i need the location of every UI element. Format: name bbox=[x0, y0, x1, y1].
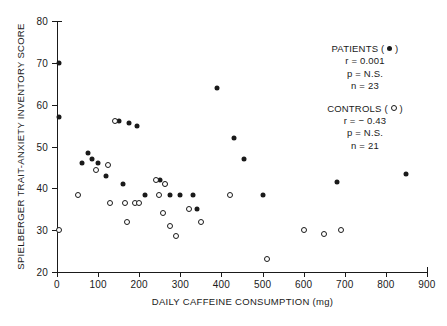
data-point-patient bbox=[57, 115, 62, 120]
x-axis-tick-label: 400 bbox=[213, 279, 230, 290]
y-axis-tick-label: 50 bbox=[36, 141, 48, 152]
x-axis-tick-label: 100 bbox=[89, 279, 106, 290]
scatter-plot-figure: SPIELBERGER TRAIT-ANXIETY INVENTORY SCOR… bbox=[0, 0, 447, 326]
data-point-control bbox=[162, 181, 168, 187]
open-circle-icon bbox=[391, 105, 397, 111]
x-axis-tick-label: 700 bbox=[336, 279, 353, 290]
data-point-patient bbox=[178, 192, 183, 197]
data-point-control bbox=[75, 192, 81, 198]
x-axis-line bbox=[57, 272, 428, 273]
y-axis-tick-label: 80 bbox=[36, 16, 48, 27]
legend-n-patients: n = 23 bbox=[300, 80, 430, 93]
x-axis-tick: 300 bbox=[180, 272, 181, 277]
data-point-patient bbox=[242, 157, 247, 162]
data-point-control bbox=[122, 200, 128, 206]
data-point-control bbox=[338, 227, 344, 233]
data-point-control bbox=[93, 167, 99, 173]
x-axis-tick-label: 600 bbox=[295, 279, 312, 290]
x-axis-tick: 100 bbox=[98, 272, 99, 277]
data-point-control bbox=[107, 200, 113, 206]
y-axis-tick-label: 30 bbox=[36, 225, 48, 236]
legend-label-controls: CONTROLS bbox=[327, 103, 381, 114]
x-axis-tick-label: 800 bbox=[377, 279, 394, 290]
data-point-patient bbox=[126, 121, 131, 126]
x-axis-tick: 400 bbox=[221, 272, 222, 277]
y-axis-tick: 60 bbox=[52, 105, 57, 106]
data-point-control bbox=[227, 192, 233, 198]
x-axis-tick-label: 300 bbox=[172, 279, 189, 290]
legend-group-controls: CONTROLS ( ) r = − 0.43 p = N.S. n = 21 bbox=[300, 102, 430, 153]
data-point-control bbox=[156, 192, 162, 198]
x-axis-tick-label: 900 bbox=[418, 279, 435, 290]
y-axis-tick: 50 bbox=[52, 147, 57, 148]
data-point-control bbox=[105, 162, 111, 168]
legend-p-patients: p = N.S. bbox=[300, 68, 430, 81]
data-point-control bbox=[167, 223, 173, 229]
data-point-control bbox=[173, 233, 179, 239]
legend-p-controls: p = N.S. bbox=[300, 127, 430, 140]
data-point-patient bbox=[79, 161, 84, 166]
x-axis-tick: 800 bbox=[386, 272, 387, 277]
x-axis-tick: 700 bbox=[345, 272, 346, 277]
y-axis-tick-label: 20 bbox=[36, 267, 48, 278]
data-point-control bbox=[198, 219, 204, 225]
data-point-control bbox=[112, 118, 118, 124]
legend-group-patients: PATIENTS ( ) r = 0.001 p = N.S. n = 23 bbox=[300, 42, 430, 93]
x-axis-tick: 600 bbox=[304, 272, 305, 277]
x-axis-tick-label: 500 bbox=[254, 279, 271, 290]
legend-paren-close-patients: ) bbox=[395, 43, 398, 54]
data-point-control bbox=[160, 210, 166, 216]
y-axis-tick: 40 bbox=[52, 188, 57, 189]
legend-n-controls: n = 21 bbox=[300, 140, 430, 153]
legend-r-controls: r = − 0.43 bbox=[300, 115, 430, 128]
x-axis-tick-label: 0 bbox=[54, 279, 60, 290]
data-point-patient bbox=[96, 161, 101, 166]
legend-title-controls: CONTROLS ( ) bbox=[300, 102, 430, 115]
legend-label-patients: PATIENTS bbox=[332, 43, 379, 54]
legend-paren-close-controls: ) bbox=[399, 103, 402, 114]
x-axis-tick: 900 bbox=[427, 272, 428, 277]
legend-paren-open-patients: ( bbox=[381, 43, 384, 54]
data-point-patient bbox=[85, 150, 90, 155]
data-point-patient bbox=[89, 157, 94, 162]
data-point-patient bbox=[215, 85, 220, 90]
data-point-patient bbox=[120, 182, 125, 187]
data-point-patient bbox=[143, 192, 148, 197]
data-point-patient bbox=[168, 192, 173, 197]
data-point-patient bbox=[190, 192, 195, 197]
y-axis-tick: 80 bbox=[52, 21, 57, 22]
data-point-patient bbox=[135, 123, 140, 128]
data-point-control bbox=[301, 227, 307, 233]
y-axis-tick-label: 40 bbox=[36, 183, 48, 194]
legend-r-patients: r = 0.001 bbox=[300, 55, 430, 68]
x-axis-tick: 0 bbox=[57, 272, 58, 277]
data-point-patient bbox=[404, 171, 409, 176]
data-point-patient bbox=[260, 192, 265, 197]
x-axis-title: DAILY CAFFEINE CONSUMPTION (mg) bbox=[57, 296, 428, 307]
data-point-control bbox=[321, 231, 327, 237]
legend-title-patients: PATIENTS ( ) bbox=[300, 42, 430, 55]
legend-paren-open-controls: ( bbox=[384, 103, 387, 114]
data-point-patient bbox=[57, 60, 62, 65]
data-point-control bbox=[186, 206, 192, 212]
legend: PATIENTS ( ) r = 0.001 p = N.S. n = 23 C… bbox=[300, 42, 430, 161]
filled-circle-icon bbox=[387, 46, 392, 51]
data-point-control bbox=[136, 200, 142, 206]
data-point-control bbox=[264, 256, 270, 262]
data-point-patient bbox=[334, 180, 339, 185]
y-axis-tick-label: 60 bbox=[36, 99, 48, 110]
x-axis-tick: 200 bbox=[139, 272, 140, 277]
data-point-patient bbox=[194, 207, 199, 212]
x-axis-tick: 500 bbox=[263, 272, 264, 277]
y-axis-tick-label: 70 bbox=[36, 57, 48, 68]
data-point-control bbox=[153, 177, 159, 183]
data-point-patient bbox=[231, 136, 236, 141]
x-axis-tick-label: 200 bbox=[131, 279, 148, 290]
data-point-control bbox=[124, 219, 130, 225]
data-point-control bbox=[56, 227, 62, 233]
data-point-patient bbox=[104, 173, 109, 178]
y-axis-title: SPIELBERGER TRAIT-ANXIETY INVENTORY SCOR… bbox=[14, 21, 28, 272]
